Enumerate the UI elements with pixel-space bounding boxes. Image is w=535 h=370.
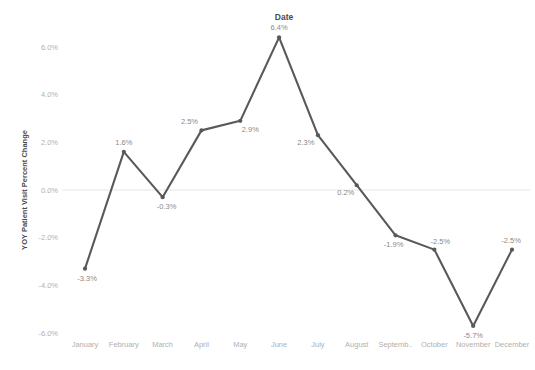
y-tick-label: 2.0% — [41, 138, 58, 147]
data-point-marker[interactable] — [122, 150, 126, 154]
data-point-label: -0.3% — [157, 202, 177, 211]
x-axis-ticks: JanuaryFebruaryMarchAprilMayJuneJulyAugu… — [72, 340, 530, 349]
y-tick-label: -6.0% — [38, 329, 58, 338]
data-point-marker[interactable] — [277, 35, 281, 39]
data-point-label: -1.9% — [384, 240, 404, 249]
x-tick-label: June — [271, 340, 287, 349]
data-point-label: 1.6% — [115, 138, 132, 147]
data-markers — [83, 35, 514, 328]
data-point-marker[interactable] — [83, 267, 87, 271]
data-point-label: -3.3% — [77, 274, 97, 283]
data-point-label: 2.3% — [297, 138, 314, 147]
chart-title: Date — [275, 12, 294, 22]
data-point-label: -5.7% — [463, 331, 483, 340]
data-point-marker[interactable] — [355, 183, 359, 187]
data-point-label: 6.4% — [271, 23, 288, 32]
data-point-label: 2.5% — [181, 117, 198, 126]
x-tick-label: April — [194, 340, 209, 349]
y-tick-label: 0.0% — [41, 186, 58, 195]
data-point-label: -2.5% — [431, 237, 451, 246]
data-series — [85, 37, 512, 326]
x-tick-label: July — [311, 340, 325, 349]
x-tick-label: August — [345, 340, 369, 349]
data-point-marker[interactable] — [432, 248, 436, 252]
x-tick-label: March — [152, 340, 173, 349]
x-tick-label: Septemb.. — [378, 340, 412, 349]
data-point-marker[interactable] — [471, 324, 475, 328]
y-axis-title: YOY Patient Visit Percent Change — [20, 130, 29, 250]
x-tick-label: November — [456, 340, 491, 349]
data-point-marker[interactable] — [238, 119, 242, 123]
data-point-marker[interactable] — [393, 233, 397, 237]
y-tick-label: -2.0% — [38, 233, 58, 242]
data-point-label: 2.9% — [242, 125, 259, 134]
x-tick-label: October — [421, 340, 448, 349]
data-point-marker[interactable] — [161, 195, 165, 199]
y-axis-ticks: 6.0%4.0%2.0%0.0%-2.0%-4.0%-6.0% — [38, 43, 58, 338]
data-point-label: -2.5% — [501, 236, 521, 245]
data-point-marker[interactable] — [510, 248, 514, 252]
chart-container: Date YOY Patient Visit Percent Change 6.… — [0, 0, 535, 370]
data-point-marker[interactable] — [316, 133, 320, 137]
x-tick-label: December — [495, 340, 530, 349]
data-point-label: 0.2% — [337, 188, 354, 197]
y-tick-label: -4.0% — [38, 281, 58, 290]
x-tick-label: February — [109, 340, 139, 349]
data-point-marker[interactable] — [199, 128, 203, 132]
y-tick-label: 4.0% — [41, 90, 58, 99]
line-chart: Date YOY Patient Visit Percent Change 6.… — [0, 0, 535, 370]
series-line-path — [85, 37, 512, 326]
x-tick-label: May — [233, 340, 247, 349]
data-point-labels: -3.3%1.6%-0.3%2.5%2.9%6.4%2.3%0.2%-1.9%-… — [77, 23, 521, 340]
y-tick-label: 6.0% — [41, 43, 58, 52]
x-tick-label: January — [72, 340, 99, 349]
